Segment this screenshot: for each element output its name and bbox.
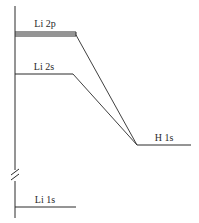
level-label-li-2p: Li 2p [34,18,55,29]
level-label-li-2s: Li 2s [34,61,54,72]
axis-break-icon [11,169,20,181]
level-label-h-1s: H 1s [155,132,174,143]
level-li-2s: Li 2s [15,61,73,74]
mo-energy-diagram: Li 2p Li 2s H 1s Li 1s [0,0,199,223]
level-h-1s: H 1s [137,132,191,145]
orbital-connections [73,35,137,145]
level-li-2p: Li 2p [15,18,76,36]
level-li-1s: Li 1s [15,194,76,207]
connection-li-2s-h-1s [73,74,137,145]
level-label-li-1s: Li 1s [35,194,55,205]
connection-li-2p-h-1s [76,35,137,145]
